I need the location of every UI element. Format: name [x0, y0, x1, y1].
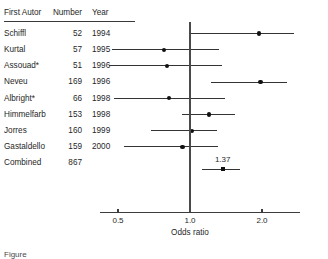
row-year-8: 2000 — [92, 142, 118, 151]
row-number-6: 153 — [52, 110, 82, 119]
confidence-interval-line — [190, 33, 294, 34]
row-author-3: Assouad* — [4, 61, 39, 70]
x-axis-tick-label: 1.0 — [175, 216, 205, 225]
row-number-2: 57 — [52, 45, 82, 54]
null-effect-line — [189, 22, 190, 212]
row-number-1: 52 — [52, 29, 82, 38]
row-year-1: 1994 — [92, 29, 118, 38]
row-number-5: 66 — [52, 94, 82, 103]
x-axis-line — [100, 212, 300, 213]
point-estimate-marker — [221, 167, 225, 171]
point-estimate-marker — [167, 96, 171, 100]
row-author-6: Himmelfarb — [4, 110, 46, 119]
column-header-number: Number — [52, 8, 82, 17]
row-number-3: 51 — [52, 61, 82, 70]
x-axis-tick-label: 2.0 — [247, 216, 277, 225]
x-axis-title: Odds ratio — [150, 228, 230, 237]
row-author-4: Neveu — [4, 77, 28, 86]
row-author-8: Gastaldello — [4, 142, 45, 151]
row-author-1: Schiffl — [4, 29, 26, 38]
row-number-8: 159 — [52, 142, 82, 151]
x-axis-tick — [117, 209, 118, 213]
point-estimate-marker — [165, 64, 169, 68]
row-author-5: Albright* — [4, 94, 35, 103]
header-underline — [4, 21, 135, 22]
point-estimate-marker — [190, 129, 194, 133]
row-number-4: 169 — [52, 77, 82, 86]
confidence-interval-line — [211, 82, 288, 83]
x-axis-tick — [261, 209, 262, 213]
forest-plot: First Autor Number Year Schiffl521994Kur… — [0, 0, 328, 259]
confidence-interval-line — [124, 146, 218, 147]
row-author-2: Kurtal — [4, 45, 25, 54]
point-estimate-marker — [207, 112, 211, 116]
point-estimate-marker — [162, 48, 166, 52]
point-estimate-marker — [180, 145, 184, 149]
point-estimate-marker — [258, 80, 262, 84]
column-header-author: First Autor — [4, 8, 41, 17]
row-author-combined: Combined — [4, 158, 41, 167]
point-estimate-marker — [257, 31, 261, 35]
x-axis-tick-label: 0.5 — [103, 216, 133, 225]
row-number-combined: 867 — [52, 158, 82, 167]
row-year-4: 1996 — [92, 77, 118, 86]
column-header-year: Year — [92, 8, 118, 17]
row-author-7: Jorres — [4, 126, 27, 135]
summary-value-label: 1.37 — [203, 155, 243, 164]
row-year-7: 1999 — [92, 126, 118, 135]
figure-caption: Figure — [4, 250, 324, 259]
row-number-7: 160 — [52, 126, 82, 135]
confidence-interval-line — [151, 130, 217, 131]
row-year-6: 1998 — [92, 110, 118, 119]
